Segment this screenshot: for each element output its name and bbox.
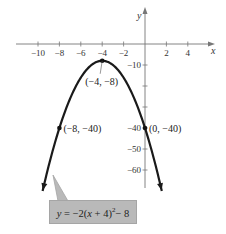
- y-tick-label: −60: [127, 165, 142, 175]
- x-tick-label: −4: [97, 48, 107, 58]
- y-tick-label: −50: [127, 144, 142, 154]
- x-axis-label: x: [210, 45, 216, 56]
- equation-callout: y = −2(x + 4)2− 8: [49, 200, 137, 224]
- y-tick-label: −10: [127, 60, 142, 70]
- x-tick-label: −6: [76, 48, 86, 58]
- x-tick-label: 2: [164, 48, 169, 58]
- point-label: (−8, −40): [63, 123, 101, 135]
- data-point: [143, 126, 148, 131]
- data-point: [57, 126, 62, 131]
- equation-text: y = −2(x + 4)2− 8: [57, 206, 129, 219]
- axes: xy−10−8−6−4−224−10−40−50−60: [16, 7, 216, 188]
- x-tick-label: 4: [186, 48, 191, 58]
- x-tick-label: −2: [119, 48, 129, 58]
- y-tick-label: −40: [127, 123, 142, 133]
- vertex-label: (−4, −8): [85, 76, 118, 88]
- point-label: (0, −40): [149, 123, 181, 135]
- y-axis-arrow-icon: [143, 7, 148, 14]
- x-tick-label: −10: [31, 48, 46, 58]
- callout-pointer: [53, 175, 68, 201]
- parabola-chart: xy−10−8−6−4−224−10−40−50−60 (−4, −8)(−8,…: [0, 0, 226, 234]
- y-axis-label: y: [136, 10, 142, 21]
- x-tick-label: −8: [55, 48, 65, 58]
